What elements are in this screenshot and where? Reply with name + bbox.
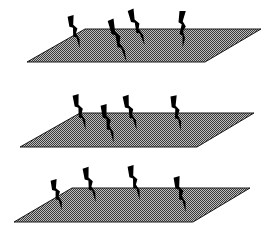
plane-3 [14, 165, 250, 222]
plane-1 [27, 9, 261, 63]
stacked-planes-diagram [0, 0, 275, 239]
plane-2 [20, 94, 254, 147]
plane-surface [27, 29, 261, 62]
plane-surface [14, 188, 250, 222]
plane-surface [20, 113, 254, 147]
